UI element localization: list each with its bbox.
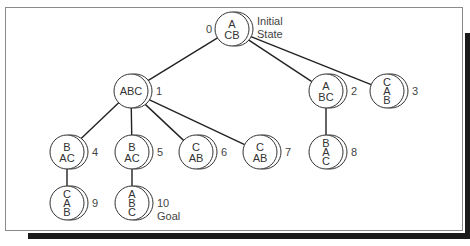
state-node-3: CAB3 bbox=[370, 74, 418, 108]
node-row-text: C bbox=[322, 155, 330, 167]
node-row-text: AB bbox=[189, 152, 204, 164]
node-row-text: C bbox=[128, 206, 136, 218]
node-row-text: CB bbox=[224, 29, 239, 41]
goal-note: Goal bbox=[157, 210, 180, 222]
initial-state-note: Initial bbox=[257, 15, 283, 27]
edge-0-1 bbox=[145, 38, 217, 82]
node-number-label: 10 bbox=[157, 197, 169, 209]
state-node-7: CAB7 bbox=[243, 135, 291, 169]
node-number-label: 3 bbox=[412, 85, 418, 97]
state-node-2: ABC2 bbox=[309, 74, 357, 108]
node-number-label: 0 bbox=[206, 23, 212, 35]
node-row-text: AC bbox=[59, 152, 74, 164]
node-row-text: B bbox=[383, 94, 390, 106]
edge-0-3 bbox=[248, 35, 371, 84]
node-row-text: BC bbox=[318, 91, 333, 103]
state-node-4: BAC4 bbox=[50, 135, 98, 169]
state-node-10: ABC10Goal bbox=[115, 186, 180, 222]
state-node-5: BAC5 bbox=[115, 135, 163, 169]
state-node-6: CAB6 bbox=[179, 135, 227, 169]
node-number-label: 2 bbox=[351, 85, 357, 97]
node-number-label: 1 bbox=[156, 85, 162, 97]
state-node-0: ACB0InitialState bbox=[206, 12, 283, 46]
nodes-layer: ACB0InitialStateABC1ABC2CAB3BAC4BAC5CAB6… bbox=[50, 12, 418, 222]
state-node-8: BAC8 bbox=[309, 135, 357, 169]
node-number-label: 9 bbox=[92, 197, 98, 209]
node-row-text: AB bbox=[253, 152, 268, 164]
edge-1-6 bbox=[143, 103, 183, 141]
node-number-label: 6 bbox=[221, 146, 227, 158]
edge-0-2 bbox=[246, 38, 312, 81]
node-number-label: 5 bbox=[157, 146, 163, 158]
node-row-text: AC bbox=[124, 152, 139, 164]
initial-state-note: State bbox=[257, 28, 283, 40]
node-number-label: 7 bbox=[285, 146, 291, 158]
node-number-label: 4 bbox=[92, 146, 98, 158]
node-row-text: ABC bbox=[120, 85, 143, 97]
search-tree: ACB0InitialStateABC1ABC2CAB3BAC4BAC5CAB6… bbox=[0, 0, 470, 246]
node-number-label: 8 bbox=[351, 146, 357, 158]
edge-1-4 bbox=[79, 103, 118, 141]
node-row-text: B bbox=[63, 206, 70, 218]
state-node-9: CAB9 bbox=[50, 186, 98, 220]
